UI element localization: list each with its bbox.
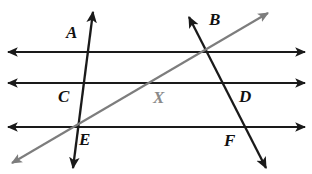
point-label-x: X bbox=[153, 89, 164, 106]
geometry-canvas bbox=[0, 0, 312, 174]
transversal-group bbox=[73, 12, 266, 168]
point-label-c: C bbox=[58, 88, 69, 105]
point-label-d: D bbox=[239, 88, 251, 105]
point-label-b: B bbox=[209, 11, 220, 28]
point-label-a: A bbox=[66, 24, 77, 41]
geometry-diagram: A B C D E F X bbox=[0, 0, 312, 174]
point-label-f: F bbox=[224, 132, 235, 149]
point-label-e: E bbox=[79, 131, 90, 148]
